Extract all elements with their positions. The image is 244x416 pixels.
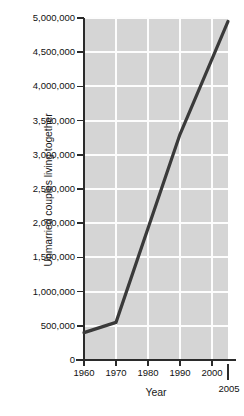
- gridline-vertical: [211, 18, 213, 360]
- y-tick-mark: [77, 120, 84, 122]
- y-tick-mark: [77, 17, 84, 19]
- y-tick-mark: [77, 257, 84, 259]
- y-tick-mark: [77, 188, 84, 190]
- x-tick-label: 1960: [73, 368, 94, 378]
- x-tick-label: 1990: [169, 368, 190, 378]
- x-tick-label: 2000: [201, 368, 222, 378]
- x-tick-label: 1970: [105, 368, 126, 378]
- gridline-horizontal: [84, 222, 228, 224]
- x-tick-mark: [179, 360, 181, 366]
- y-tick-label: 0: [20, 355, 75, 365]
- gridline-horizontal: [84, 188, 228, 190]
- gridline-horizontal: [84, 17, 228, 19]
- y-tick-mark: [77, 325, 84, 327]
- gridline-horizontal: [84, 51, 228, 53]
- gridline-horizontal: [84, 120, 228, 122]
- plot-area: [84, 18, 228, 360]
- y-tick-label: 5,000,000: [20, 13, 75, 23]
- gridline-horizontal: [84, 85, 228, 87]
- x-axis-title: Year: [84, 386, 228, 398]
- y-tick-label: 4,500,000: [20, 47, 75, 57]
- line-chart: 0500,0001,000,0001,500,0002,000,0002,500…: [0, 0, 244, 416]
- gridline-horizontal: [84, 154, 228, 156]
- gridline-horizontal: [84, 325, 228, 327]
- gridline-horizontal: [84, 291, 228, 293]
- x-tick-mark: [211, 360, 213, 366]
- y-tick-mark: [77, 154, 84, 156]
- x-tick-mark: [83, 360, 85, 366]
- gridline-vertical: [147, 18, 149, 360]
- gridline-vertical: [115, 18, 117, 360]
- x-tick-mark: [147, 360, 149, 366]
- y-tick-mark: [77, 86, 84, 88]
- x-tick-label: 1980: [137, 368, 158, 378]
- y-axis-title: Unmarried couples living together: [42, 60, 54, 320]
- y-tick-mark: [77, 291, 84, 293]
- x-tick-mark: [115, 360, 117, 366]
- y-tick-mark: [77, 222, 84, 224]
- y-tick-label: 500,000: [20, 321, 75, 331]
- x-axis-end-tick: [227, 364, 228, 380]
- gridline-horizontal: [84, 256, 228, 258]
- y-tick-mark: [77, 51, 84, 53]
- gridline-vertical: [179, 18, 181, 360]
